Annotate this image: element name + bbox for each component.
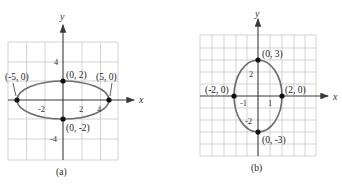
point-b — [255, 129, 260, 134]
point-a — [60, 116, 65, 121]
point-label-b: (2, 0) — [285, 85, 306, 96]
x-tick-b: 1 — [268, 98, 272, 108]
point-a — [60, 78, 65, 83]
point-label-b: (0, -3) — [262, 135, 286, 146]
point-a — [14, 97, 19, 102]
point-a — [106, 97, 111, 102]
point-b — [231, 93, 236, 98]
point-label-a: (5, 0) — [96, 72, 117, 83]
panel-b: y x -1 1 2 -2 (0, 3) (-2, 0) (2, 0) (0, … — [200, 8, 338, 174]
point-b — [255, 57, 260, 62]
x-axis-label-b: x — [332, 91, 338, 102]
x-tick-b: -1 — [240, 98, 247, 108]
x-tick-a: -2 — [38, 104, 45, 114]
panel-caption-a: (a) — [56, 167, 67, 178]
y-tick-b: 2 — [249, 69, 253, 79]
point-label-a: (-5, 0) — [5, 72, 29, 83]
x-tick-a: 2 — [79, 104, 83, 114]
x-axis-label-a: x — [138, 94, 144, 105]
y-axis-label-a: y — [59, 11, 65, 22]
point-label-b: (-2, 0) — [205, 85, 229, 96]
point-label-b: (0, 3) — [262, 49, 283, 60]
leader-arrow-a — [110, 83, 112, 96]
y-tick-a: -4 — [50, 134, 58, 144]
panel-a: y x -2 2 4 4 -4 (-5, 0) (0, 2) (5, 0) (0… — [5, 11, 144, 178]
x-tick-a: 4 — [97, 104, 102, 114]
y-axis-label-b: y — [254, 8, 260, 19]
panel-caption-b: (b) — [251, 163, 262, 174]
point-b — [279, 93, 284, 98]
point-label-a: (0, 2) — [66, 70, 87, 81]
point-label-a: (0, -2) — [66, 123, 90, 134]
y-tick-b: -2 — [245, 116, 252, 126]
figure: y x -2 2 4 4 -4 (-5, 0) (0, 2) (5, 0) (0… — [0, 0, 342, 184]
leader-arrow-a — [13, 83, 16, 96]
